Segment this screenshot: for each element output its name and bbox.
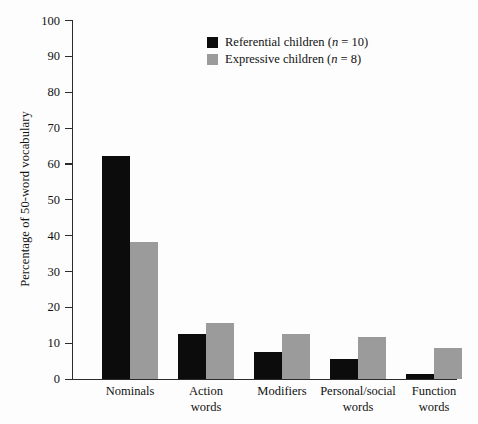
y-axis-tick-label: 40	[48, 229, 61, 242]
y-axis-tick-label: 0	[54, 373, 60, 386]
legend-swatch	[207, 54, 218, 65]
x-axis-line	[72, 379, 457, 380]
y-axis-tick-label: 80	[48, 86, 61, 99]
y-axis-tick-label: 60	[48, 157, 61, 170]
bar-group	[254, 20, 310, 379]
legend-item: Referential children (n = 10)	[207, 35, 368, 50]
bar-group	[102, 20, 158, 379]
y-axis-tick: 40	[65, 235, 72, 236]
x-axis-tick-label: Function words	[374, 384, 478, 415]
y-axis-tick-label: 90	[48, 50, 61, 63]
y-axis-tick-label: 10	[48, 337, 61, 350]
y-axis-tick: 100	[65, 20, 72, 21]
y-axis-tick-label: 20	[48, 301, 61, 314]
legend-label: Expressive children (n = 8)	[225, 53, 361, 66]
bar	[406, 374, 434, 378]
bar	[282, 334, 310, 379]
y-axis-tick: 60	[65, 163, 72, 164]
bar	[130, 242, 158, 378]
y-axis-tick: 30	[65, 271, 72, 272]
y-axis-tick: 0	[65, 379, 72, 380]
y-axis-tick: 10	[65, 343, 72, 344]
legend-item: Expressive children (n = 8)	[207, 52, 368, 67]
y-axis-tick-label: 100	[41, 14, 60, 27]
y-axis-tick: 90	[65, 56, 72, 57]
bar	[102, 156, 130, 378]
bar-group	[406, 20, 462, 379]
bar-chart: Percentage of 50-word vocabulary 0102030…	[0, 0, 478, 424]
y-axis-tick-label: 30	[48, 265, 61, 278]
y-axis-title: Percentage of 50-word vocabulary	[18, 19, 36, 379]
y-axis-tick: 50	[65, 199, 72, 200]
bar-group	[330, 20, 386, 379]
y-axis-tick: 70	[65, 128, 72, 129]
plot-area	[73, 20, 457, 379]
y-axis-tick-label: 70	[48, 122, 61, 135]
legend-swatch	[207, 37, 218, 48]
bar	[330, 359, 358, 379]
y-axis-tick: 20	[65, 307, 72, 308]
bar	[178, 334, 206, 379]
bar-group	[178, 20, 234, 379]
bar	[254, 352, 282, 379]
chart-legend: Referential children (n = 10)Expressive …	[207, 35, 368, 69]
bar	[206, 323, 234, 379]
y-axis-tick-label: 50	[48, 193, 61, 206]
legend-label: Referential children (n = 10)	[225, 36, 368, 49]
bar	[434, 348, 462, 378]
bar	[358, 337, 386, 378]
y-axis-tick: 80	[65, 92, 72, 93]
